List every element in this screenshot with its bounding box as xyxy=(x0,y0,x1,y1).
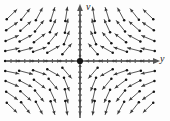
field-arrow xyxy=(90,77,97,91)
field-arrow xyxy=(114,47,128,53)
field-arrow xyxy=(47,78,57,90)
y-axis-label: y xyxy=(160,54,164,64)
field-arrow xyxy=(128,79,142,87)
field-arrow xyxy=(114,69,128,75)
field-arrow xyxy=(128,35,142,43)
field-arrow xyxy=(142,80,156,87)
origin-point-marker xyxy=(77,58,83,64)
field-arrow xyxy=(105,7,111,22)
field-arrow xyxy=(35,8,43,22)
field-arrow xyxy=(4,80,18,87)
field-arrow xyxy=(63,77,70,91)
field-arrow xyxy=(61,44,71,56)
field-arrow xyxy=(118,8,126,22)
field-arrow xyxy=(6,10,17,21)
field-arrow xyxy=(5,90,18,99)
field-arrow xyxy=(4,70,19,75)
field-arrow xyxy=(102,32,112,44)
field-arrow xyxy=(20,101,30,113)
field-arrow xyxy=(4,35,18,42)
field-arrow xyxy=(47,32,57,44)
field-arrow xyxy=(141,47,156,52)
field-arrow xyxy=(49,100,55,115)
field-arrow xyxy=(101,68,114,76)
field-arrow xyxy=(34,21,44,33)
field-arrow xyxy=(19,22,31,32)
field-arrow xyxy=(127,69,142,75)
field-arrow xyxy=(46,68,59,76)
field-arrow xyxy=(116,21,126,33)
field-arrow xyxy=(130,9,140,21)
field-arrow xyxy=(63,31,70,45)
field-arrow xyxy=(90,31,97,45)
field-arrow xyxy=(19,90,31,100)
field-arrow xyxy=(20,9,30,21)
field-arrow xyxy=(89,44,99,56)
field-arrow xyxy=(143,102,154,113)
field-arrow xyxy=(18,69,33,75)
field-arrow xyxy=(129,22,141,32)
field-arrow xyxy=(32,69,46,75)
v-axis-label: v xyxy=(86,2,90,12)
field-arrow xyxy=(6,102,17,113)
field-arrow xyxy=(89,66,99,78)
field-arrow xyxy=(35,100,43,114)
field-arrow xyxy=(129,90,141,100)
field-arrow xyxy=(142,35,156,42)
field-arrow xyxy=(49,7,55,22)
field-arrow xyxy=(34,89,44,101)
direction-field-figure: v y xyxy=(0,0,170,121)
axes-layer xyxy=(6,4,160,118)
field-arrow xyxy=(118,100,126,114)
field-arrow xyxy=(18,47,33,53)
field-arrow xyxy=(32,47,46,53)
field-arrow xyxy=(105,100,111,115)
direction-field-plot xyxy=(0,0,170,121)
field-arrow xyxy=(101,46,114,54)
field-arrow xyxy=(33,78,45,88)
field-arrow xyxy=(130,101,140,113)
v-axis-arrowhead xyxy=(77,4,83,11)
field-arrow xyxy=(142,22,155,31)
field-arrow xyxy=(143,10,154,21)
field-arrow xyxy=(5,22,18,31)
field-arrow xyxy=(127,47,142,53)
field-arrow xyxy=(46,46,59,54)
field-arrow xyxy=(142,90,155,99)
field-arrow xyxy=(33,34,45,44)
field-arrow xyxy=(141,70,156,75)
field-arrow xyxy=(102,78,112,90)
field-arrow xyxy=(18,79,32,87)
field-arrow xyxy=(61,66,71,78)
field-arrow xyxy=(116,89,126,101)
field-arrow xyxy=(115,78,127,88)
field-arrow xyxy=(115,34,127,44)
y-axis-arrowhead xyxy=(153,58,160,64)
field-arrow xyxy=(4,47,19,52)
field-arrow xyxy=(18,35,32,43)
